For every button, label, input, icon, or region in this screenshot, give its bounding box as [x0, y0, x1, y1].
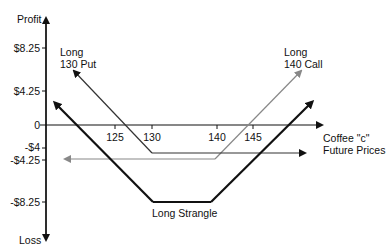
put-annotation-line1: Long	[60, 46, 96, 58]
x-tick-125: 125	[103, 131, 127, 143]
x-tick-140: 140	[205, 131, 229, 143]
call-annotation: Long 140 Call	[284, 46, 323, 70]
y-tick-8-25: $8.25	[0, 42, 40, 54]
y-tick-4-25: $4.25	[0, 85, 40, 97]
x-tick-130: 130	[140, 131, 164, 143]
x-axis	[40, 125, 322, 129]
x-axis-label-line1: Coffee "c"	[323, 132, 385, 144]
y-tick-neg-4: -$4	[0, 141, 40, 153]
y-axis-label-profit: Profit	[17, 13, 42, 25]
x-axis-label-line2: Future Prices	[323, 144, 385, 156]
put-annotation-line2: 130 Put	[60, 58, 96, 70]
x-tick-145: 145	[241, 131, 265, 143]
y-tick-neg-8-25: -$8.25	[0, 196, 40, 208]
strangle-annotation: Long Strangle	[152, 207, 217, 219]
y-axis-label-loss: Loss	[19, 234, 41, 246]
y-tick-0: 0	[0, 119, 40, 131]
y-axis	[42, 18, 46, 240]
call-annotation-line1: Long	[284, 46, 323, 58]
y-tick-neg-4-25: -$4.25	[0, 154, 40, 166]
call-annotation-line2: 140 Call	[284, 58, 323, 70]
x-axis-label: Coffee "c" Future Prices	[323, 132, 385, 156]
put-annotation: Long 130 Put	[60, 46, 96, 70]
